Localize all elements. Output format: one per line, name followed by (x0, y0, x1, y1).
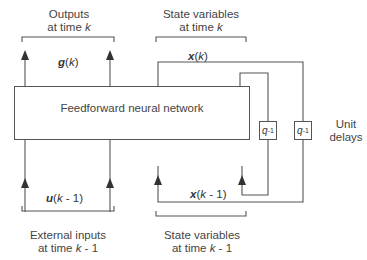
feedforward-network-block: Feedforward neural network (14, 86, 250, 140)
state-vars-k1-label: State variables at time k - 1 (156, 229, 248, 255)
unit-delay-inner: q-1 (259, 121, 277, 140)
output-signal-gk: g(k) (58, 56, 78, 68)
unit-delay-outer: q-1 (294, 121, 312, 140)
state-signal-xk: x(k) (188, 50, 208, 62)
prev-state-signal-xk1: x(k - 1) (190, 188, 226, 200)
input-signal-uk1: u(k - 1) (46, 192, 83, 204)
state-vars-k-label: State variables at time k (155, 8, 247, 34)
external-inputs-label: External inputs at time k - 1 (20, 229, 116, 255)
outputs-label: Outputs at time k (34, 8, 104, 34)
unit-delays-label: Unit delays (326, 118, 366, 144)
